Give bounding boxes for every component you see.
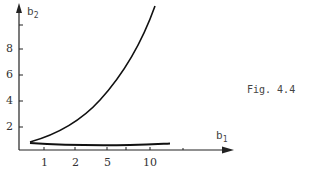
- upper-curve: [30, 6, 155, 142]
- x-axis-arrow-icon: [222, 147, 234, 154]
- figure-caption: Fig. 4.4: [247, 84, 295, 95]
- x-tick-label-5: 5: [104, 157, 111, 168]
- x-tick-label-2: 2: [72, 157, 79, 168]
- y-tick-label-8: 8: [6, 43, 13, 54]
- x-tick-label-10: 10: [143, 157, 157, 168]
- lower-curve: [30, 143, 170, 145]
- y-tick-label-4: 4: [6, 95, 13, 106]
- x-tick-label-1: 1: [41, 157, 48, 168]
- y-axis-label: b2: [27, 6, 38, 20]
- y-axis-arrow-icon: [16, 3, 22, 13]
- y-tick-label-6: 6: [6, 69, 13, 80]
- y-tick-label-2: 2: [6, 121, 13, 132]
- x-axis-label: b1: [216, 130, 227, 144]
